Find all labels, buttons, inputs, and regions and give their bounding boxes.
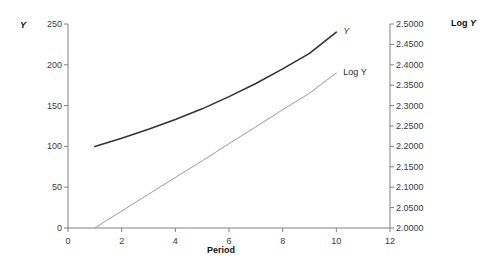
left-tick-label-50: 50 xyxy=(18,182,62,192)
left-tick-label-200: 200 xyxy=(18,60,62,70)
x-tick-label-2: 2 xyxy=(110,236,134,246)
left-tick-label-100: 100 xyxy=(18,141,62,151)
right-axis-title: Log Y xyxy=(451,18,476,28)
x-tick-label-12: 12 xyxy=(378,236,402,246)
x-tick-label-0: 0 xyxy=(56,236,80,246)
x-tick-label-10: 10 xyxy=(324,236,348,246)
right-tick-label-2.5000: 2.5000 xyxy=(396,19,436,29)
y-curve-label: Y xyxy=(343,26,349,36)
logy-curve-label: Log Y xyxy=(343,67,366,77)
x-tick-label-4: 4 xyxy=(163,236,187,246)
series-line-y xyxy=(95,32,336,146)
right-tick-label-2.1000: 2.1000 xyxy=(396,182,436,192)
chart-figure: Y Log Y Period 0501001502002502.00002.05… xyxy=(0,0,487,265)
left-tick-label-250: 250 xyxy=(18,19,62,29)
left-tick-label-150: 150 xyxy=(18,101,62,111)
x-tick-label-8: 8 xyxy=(271,236,295,246)
left-tick-label-0: 0 xyxy=(18,223,62,233)
right-tick-label-2.3500: 2.3500 xyxy=(396,80,436,90)
right-tick-label-2.0000: 2.0000 xyxy=(396,223,436,233)
right-tick-label-2.4000: 2.4000 xyxy=(396,60,436,70)
right-tick-label-2.4500: 2.4500 xyxy=(396,39,436,49)
x-axis-title: Period xyxy=(207,245,235,255)
right-tick-label-2.1500: 2.1500 xyxy=(396,162,436,172)
right-tick-label-2.2000: 2.2000 xyxy=(396,141,436,151)
right-tick-label-2.0500: 2.0500 xyxy=(396,203,436,213)
right-tick-label-2.2500: 2.2500 xyxy=(396,121,436,131)
x-tick-label-6: 6 xyxy=(217,236,241,246)
series-line-log-y xyxy=(95,73,336,228)
right-tick-label-2.3000: 2.3000 xyxy=(396,101,436,111)
